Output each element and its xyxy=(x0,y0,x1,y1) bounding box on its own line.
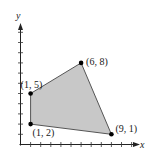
shaded-region xyxy=(31,63,112,134)
x-axis-arrow-icon xyxy=(133,142,140,147)
feasible-region-chart: (1, 2)(1, 5)(6, 8)(9, 1) x y xyxy=(0,0,148,156)
vertex-label: (6, 8) xyxy=(86,56,108,68)
region-polygon xyxy=(31,63,112,134)
vertex-label: (9, 1) xyxy=(115,123,137,135)
vertex-point xyxy=(28,122,33,127)
y-axis-label: y xyxy=(15,10,21,21)
vertex-point xyxy=(109,132,114,137)
y-axis-arrow-icon xyxy=(18,23,23,30)
vertex-label: (1, 5) xyxy=(21,79,43,91)
vertex-point xyxy=(28,91,33,96)
x-axis-label: x xyxy=(139,139,145,150)
vertex-point xyxy=(79,61,84,66)
vertex-label: (1, 2) xyxy=(33,127,55,139)
